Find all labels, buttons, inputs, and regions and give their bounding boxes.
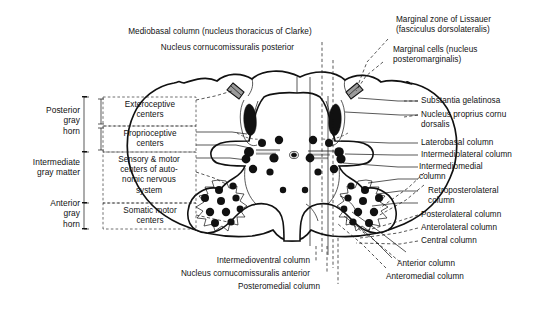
label-exteroceptive-centers: Exteroceptive centers (106, 100, 194, 120)
label-nucleus-proprius-cornu-dorsalis: Nucleus proprius cornu dorsalis (421, 110, 555, 130)
region-brackets (84, 97, 89, 229)
label-anteromedial-column: Anteromedial column (386, 272, 536, 282)
label-intermediomedial-column: Intermediomedial column (419, 162, 553, 182)
label-central-column: Central column (421, 236, 559, 246)
label-laterobasal-column: Laterobasal column (421, 138, 559, 148)
label-autonomic-centers: Sensory & motor centers of auto- nomic n… (102, 155, 196, 196)
label-intermedioventral-column: Intermedioventral column (140, 256, 310, 266)
central-canal (291, 153, 296, 157)
label-posterolateral-column: Posterolateral column (421, 210, 559, 220)
leader-bottom-center (316, 238, 338, 284)
label-marginal-zone-of-lissauer: Marginal zone of Lissauer (fasciculus do… (396, 15, 559, 35)
label-proprioceptive-centers: Proprioceptive centers (106, 129, 194, 149)
label-anterior-gray-horn: Anterior gray horn (8, 198, 80, 229)
label-posteromedial-column: Posteromedial column (150, 282, 320, 292)
label-mediobasal-column: Mediobasal column (nucleus thoracicus of… (95, 27, 345, 37)
label-substantia-gelatinosa: Substantia gelatinosa (421, 96, 559, 106)
label-intermediate-gray-matter: Intermediate gray matter (0, 157, 80, 178)
spinal-cord-diagram: Mediobasal column (nucleus thoracicus of… (0, 0, 559, 313)
label-somatic-motor-centers: Somatic motor centers (106, 206, 194, 226)
label-nucleus-cornucomissuralis-posterior: Nucleus cornucomissuralis posterior (110, 43, 345, 53)
label-marginal-cells: Marginal cells (nucleus posteromarginali… (393, 45, 543, 65)
label-intermediolateral-column: Intermediolateral column (421, 150, 559, 160)
label-anterior-column: Anterior column (397, 259, 535, 269)
label-retroposterolateral-column: Retroposterolateral column (428, 186, 558, 206)
bracket-ticks (82, 96, 87, 229)
label-nucleus-cornucomissuralis-anterior: Nucleus cornucomissuralis anterior (128, 269, 310, 279)
label-anterolateral-column: Anterolateral column (421, 223, 559, 233)
label-posterior-gray-horn: Posterior gray horn (8, 105, 80, 136)
